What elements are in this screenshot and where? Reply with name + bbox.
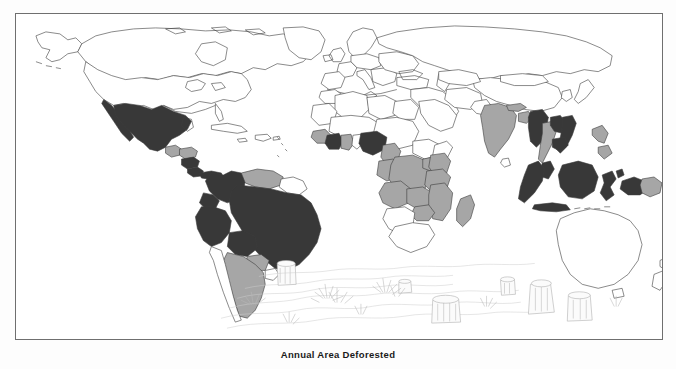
shrub-clump (311, 284, 353, 303)
figure-caption: Annual Area Deforested (0, 349, 676, 360)
distant-ridge (259, 263, 534, 276)
region-maluku (616, 169, 624, 178)
jamaica (237, 138, 247, 142)
region-iberia (321, 72, 345, 90)
region-sumatra (518, 161, 544, 203)
stump (528, 280, 554, 314)
region-india (481, 103, 517, 157)
world-map (16, 14, 662, 339)
region-british-isles (329, 48, 345, 62)
ground-contour (237, 284, 452, 298)
region-cuba (211, 123, 247, 133)
region-alaska (36, 32, 82, 62)
region-libya (367, 95, 397, 119)
grass-tuft (355, 304, 367, 314)
region-north-america (36, 27, 325, 151)
region-japan (574, 80, 594, 104)
stump (567, 292, 592, 321)
region-ivory-coast (325, 133, 343, 149)
region-guatemala (166, 145, 182, 157)
region-angola (379, 181, 411, 209)
region-sulawesi (600, 171, 616, 201)
stump (501, 277, 516, 295)
lesser-sunda-islands (574, 207, 610, 209)
region-honduras (179, 147, 197, 159)
region-mexico (114, 103, 192, 151)
region-borneo (558, 161, 598, 199)
stump (432, 295, 461, 323)
ground-contour (221, 302, 520, 318)
region-oceania (556, 209, 662, 298)
region-papua-new-guinea (640, 177, 662, 197)
region-korea (561, 90, 572, 102)
region-mongolia (501, 74, 549, 86)
deforestation-figure: Annual Area Deforested (0, 0, 676, 369)
aleutian-islands (36, 62, 61, 69)
region-philippines (592, 125, 612, 159)
region-sri-lanka (501, 158, 511, 167)
region-south-africa (389, 223, 435, 253)
puerto-rico (273, 136, 280, 140)
stump (399, 279, 412, 293)
clearcut-landscape-illustration (221, 260, 622, 328)
region-java (532, 203, 570, 212)
florida-peninsula (215, 103, 223, 121)
region-scandinavia (347, 28, 377, 58)
region-algeria (335, 92, 369, 120)
region-south-america (195, 169, 321, 322)
region-australia (556, 209, 642, 289)
ground-contour (229, 290, 518, 308)
region-new-zealand (652, 257, 662, 291)
grass-tuft (610, 296, 622, 306)
region-hispaniola (255, 134, 271, 141)
lesser-antilles (277, 137, 287, 157)
region-canada (78, 28, 311, 82)
grass-tuft (481, 296, 497, 308)
region-madagascar (457, 195, 475, 227)
map-frame (15, 13, 663, 340)
region-egypt (393, 99, 419, 119)
region-peru (195, 207, 231, 247)
ground-contour (227, 311, 542, 328)
tasmania (612, 288, 624, 298)
